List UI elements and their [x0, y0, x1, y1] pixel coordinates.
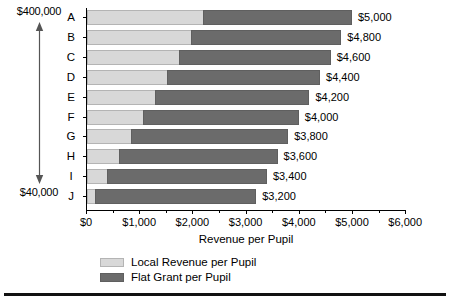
bar-value-label-h: $3,600	[284, 149, 318, 164]
bar-segment-flat-grant-d	[167, 70, 320, 85]
bar-row-j: $3,200	[87, 189, 256, 204]
category-tick	[83, 77, 87, 78]
bar-segment-local-revenue-h	[87, 149, 120, 164]
bar-value-label-i: $3,400	[273, 169, 307, 184]
legend-item-local-revenue: Local Revenue per Pupil	[100, 256, 256, 269]
bar-segment-local-revenue-a	[87, 10, 204, 25]
category-axis-labels: ABCDEFGHIJ	[60, 8, 82, 208]
bar-value-label-j: $3,200	[262, 189, 296, 204]
category-tick	[83, 17, 87, 18]
legend-swatch-icon	[100, 258, 124, 267]
bar-segment-flat-grant-a	[203, 10, 352, 25]
bar-row-g: $3,800	[87, 129, 288, 144]
legend-label: Flat Grant per Pupil	[131, 271, 231, 284]
category-tick	[83, 57, 87, 58]
bar-segment-local-revenue-c	[87, 50, 180, 65]
category-tick	[83, 37, 87, 38]
bar-row-e: $4,200	[87, 90, 309, 105]
x-tick-minor	[379, 210, 380, 213]
bar-value-label-c: $4,600	[337, 50, 371, 65]
bar-row-h: $3,600	[87, 149, 278, 164]
x-tick-label-1000: $1,000	[109, 216, 169, 228]
bar-value-label-a: $5,000	[358, 10, 392, 25]
category-label-g: G	[60, 130, 82, 142]
x-tick-label-6000: $6,000	[375, 216, 435, 228]
x-tick-label-5000: $5,000	[322, 216, 382, 228]
double-headed-vertical-arrow-icon	[34, 22, 45, 184]
chart-legend: Local Revenue per PupilFlat Grant per Pu…	[100, 256, 256, 286]
category-tick	[83, 117, 87, 118]
bar-row-d: $4,400	[87, 70, 320, 85]
x-axis-title: Revenue per Pupil	[86, 233, 406, 245]
plot-area: $5,000$4,800$4,600$4,400$4,200$4,000$3,8…	[86, 8, 406, 210]
x-tick-minor	[325, 210, 326, 213]
bar-row-b: $4,800	[87, 30, 341, 45]
category-tick	[83, 176, 87, 177]
category-label-d: D	[60, 71, 82, 83]
bar-segment-flat-grant-c	[179, 50, 331, 65]
bar-segment-local-revenue-d	[87, 70, 168, 85]
category-label-h: H	[60, 150, 82, 162]
bar-segment-flat-grant-f	[143, 110, 299, 125]
category-label-f: F	[60, 111, 82, 123]
x-tick-minor	[166, 210, 167, 213]
bar-segment-flat-grant-h	[119, 149, 277, 164]
bar-segment-flat-grant-j	[95, 189, 256, 204]
bar-segment-flat-grant-e	[155, 90, 309, 105]
x-tick-4000	[299, 210, 300, 214]
bar-segment-local-revenue-i	[87, 169, 108, 184]
x-tick-label-3000: $3,000	[216, 216, 276, 228]
bar-segment-flat-grant-b	[191, 30, 341, 45]
bar-row-f: $4,000	[87, 110, 299, 125]
bottom-rule-divider	[4, 293, 446, 296]
category-tick	[83, 196, 87, 197]
x-tick-1000	[139, 210, 140, 214]
legend-item-flat-grant: Flat Grant per Pupil	[100, 271, 256, 284]
x-tick-minor	[219, 210, 220, 213]
bar-segment-local-revenue-b	[87, 30, 192, 45]
legend-label: Local Revenue per Pupil	[131, 256, 256, 269]
x-tick-3000	[246, 210, 247, 214]
bar-value-label-g: $3,800	[294, 129, 328, 144]
x-tick-2000	[192, 210, 193, 214]
bar-row-c: $4,600	[87, 50, 331, 65]
legend-swatch-icon	[100, 273, 124, 282]
bar-value-label-b: $4,800	[347, 30, 381, 45]
x-tick-label-0: $0	[56, 216, 116, 228]
x-tick-label-2000: $2,000	[162, 216, 222, 228]
x-axis: $0$1,000$2,000$3,000$4,000$5,000$6,000	[86, 210, 406, 211]
bar-segment-local-revenue-g	[87, 129, 132, 144]
stacked-bar-chart-figure: $400,000 $40,000 ABCDEFGHIJ $5,000$4,800…	[0, 0, 450, 306]
category-label-a: A	[60, 11, 82, 23]
bar-value-label-d: $4,400	[326, 70, 360, 85]
bar-segment-local-revenue-f	[87, 110, 144, 125]
category-tick	[83, 156, 87, 157]
bar-segment-local-revenue-e	[87, 90, 156, 105]
category-label-e: E	[60, 91, 82, 103]
bar-segment-flat-grant-i	[107, 169, 267, 184]
category-label-i: I	[60, 170, 82, 182]
x-tick-label-4000: $4,000	[269, 216, 329, 228]
x-tick-minor	[113, 210, 114, 213]
bar-value-label-f: $4,000	[305, 110, 339, 125]
category-label-j: J	[60, 190, 82, 202]
bar-row-a: $5,000	[87, 10, 352, 25]
category-label-b: B	[60, 31, 82, 43]
x-tick-minor	[272, 210, 273, 213]
bar-value-label-e: $4,200	[315, 90, 349, 105]
x-tick-0	[86, 210, 87, 214]
x-tick-5000	[352, 210, 353, 214]
category-label-c: C	[60, 51, 82, 63]
category-tick	[83, 97, 87, 98]
x-tick-6000	[405, 210, 406, 214]
bar-segment-flat-grant-g	[131, 129, 288, 144]
category-tick	[83, 136, 87, 137]
bar-row-i: $3,400	[87, 169, 267, 184]
